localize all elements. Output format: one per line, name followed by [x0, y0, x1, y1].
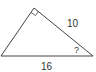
side-label-10: 10: [67, 18, 79, 29]
angle-label-unknown: ?: [74, 45, 79, 55]
base-label-16: 16: [41, 61, 53, 72]
triangle-figure: 10 ? 16: [0, 0, 96, 72]
right-angle-marker: [31, 11, 39, 16]
triangle-shape: [1, 8, 93, 56]
triangle-diagram: 10 ? 16: [0, 0, 96, 72]
